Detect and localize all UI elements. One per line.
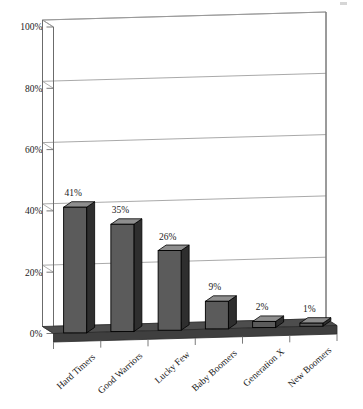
y-axis-tick-label: 60%	[25, 145, 43, 155]
y-axis-tick-label: 40%	[25, 206, 43, 216]
left-side-wall	[43, 20, 54, 334]
bar-value-label: 35%	[112, 205, 130, 215]
bar-front-face	[111, 224, 134, 331]
bar-front-face	[158, 251, 181, 331]
y-axis-tick-label: 0%	[30, 329, 43, 339]
y-axis-tick-label: 100%	[20, 22, 42, 32]
bar-front-face	[64, 207, 87, 333]
chart-canvas: 0%20%40%60%80%100% 41%35%26%9%2%1% Hard …	[0, 0, 363, 409]
bar	[205, 296, 236, 329]
bar-value-label: 1%	[303, 304, 316, 314]
bar-value-label: 26%	[159, 232, 177, 242]
bar	[111, 219, 142, 332]
bar	[64, 202, 95, 333]
bar-chart-figure: 0%20%40%60%80%100% 41%35%26%9%2%1% Hard …	[0, 0, 363, 409]
category-label: Baby Boomers	[190, 348, 239, 394]
category-label: Lucky Few	[153, 349, 192, 385]
bar-front-face	[205, 301, 228, 329]
category-axis-labels: Hard TimersGood WarriorsLucky FewBaby Bo…	[55, 345, 334, 396]
bar-value-label: 9%	[209, 282, 222, 292]
bar-side-face	[87, 202, 95, 333]
y-axis-tick-label: 80%	[25, 84, 43, 94]
category-label: Generation X	[241, 346, 286, 388]
bar-side-face	[181, 245, 189, 330]
category-label: Good Warriors	[96, 350, 145, 395]
bar-value-label: 41%	[64, 188, 82, 198]
scan-artifact	[340, 2, 347, 5]
bar	[158, 245, 189, 330]
y-axis-tick-label: 20%	[25, 268, 43, 278]
bar-front-face	[300, 323, 323, 326]
bar-value-label: 2%	[256, 302, 269, 312]
bar-front-face	[253, 321, 276, 327]
category-label: Hard Timers	[55, 352, 97, 392]
category-label: New Boomers	[286, 345, 334, 389]
bar-side-face	[134, 219, 142, 332]
